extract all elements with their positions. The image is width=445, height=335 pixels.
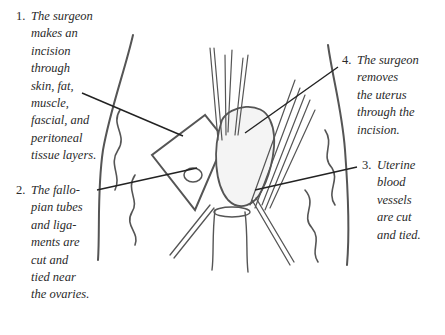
label-uterine-vessels: 3. Uterine blood vessels are cut and tie… (377, 157, 421, 244)
label-uterus-removal: 4. The surgeon removes the uterus throug… (357, 52, 419, 139)
incision-opening (152, 115, 225, 210)
leader-line-2 (97, 168, 197, 190)
leader-line-4 (245, 67, 338, 133)
leader-line-1 (82, 93, 183, 136)
label-fallopian-tubes: 2. The fallo- pian tubes and liga- ments… (31, 182, 89, 304)
label-number: 1. (16, 8, 25, 25)
label-incision: 1. The surgeon makes an incision through… (31, 8, 96, 165)
uterus (216, 107, 274, 206)
label-number: 2. (16, 182, 25, 199)
body-outline-right (328, 45, 348, 265)
label-number: 3. (362, 157, 371, 174)
label-number: 4. (342, 52, 351, 69)
body-outline-left (98, 35, 133, 260)
